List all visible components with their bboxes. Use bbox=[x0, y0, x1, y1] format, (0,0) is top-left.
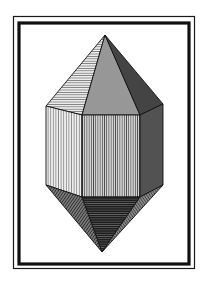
crystal bbox=[46, 35, 163, 252]
prism-left-face bbox=[46, 106, 82, 197]
prism-front-face bbox=[82, 115, 140, 197]
crystal-illustration: hexagonal bipyramidal crystal bbox=[0, 0, 205, 284]
prism-right-face bbox=[140, 104, 163, 197]
crystal-engraving-svg bbox=[0, 0, 205, 284]
